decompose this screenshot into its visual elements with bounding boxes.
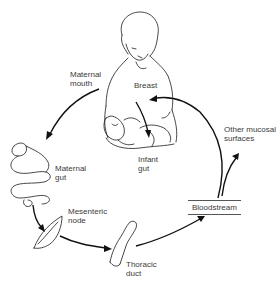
label-breast: Breast: [134, 81, 157, 90]
arrow-breast-to-infant-gut: [136, 102, 148, 132]
label-line: Maternal: [55, 164, 86, 173]
label-line: surfaces: [224, 134, 276, 143]
label-line: Mesenteric: [68, 207, 107, 216]
label-line: Maternal: [70, 70, 101, 79]
arrow-bloodstream-to-mucosal: [222, 158, 236, 196]
arrow-mouth-to-gut: [50, 89, 99, 134]
label-maternal-mouth: Maternal mouth: [70, 70, 101, 88]
label-line: gut: [138, 164, 158, 173]
arrow-node-to-duct: [60, 236, 106, 248]
label-infant-gut: Infant gut: [138, 155, 158, 173]
label-line: mouth: [70, 79, 101, 88]
arrowhead-icon: [197, 216, 205, 222]
enteromammary-diagram: Maternal mouth Breast Infant gut Materna…: [0, 0, 280, 281]
label-line: node: [68, 216, 107, 225]
label-thoracic-duct: Thoracic duct: [126, 260, 157, 278]
label-mesenteric-node: Mesenteric node: [68, 207, 107, 225]
label-line: Infant: [138, 155, 158, 164]
arrow-duct-to-bloodstream: [136, 219, 200, 246]
arrowhead-icon: [104, 245, 112, 252]
arrowhead-icon: [149, 95, 157, 102]
label-line: gut: [55, 173, 86, 182]
label-other-mucosal-surfaces: Other mucosal surfaces: [224, 125, 276, 143]
arrow-gut-to-node: [33, 205, 42, 228]
maternal-gut-illustration: [11, 143, 50, 207]
label-line: duct: [126, 269, 157, 278]
arrowhead-icon: [46, 131, 53, 140]
mesenteric-node-illustration: [34, 216, 62, 248]
label-line: Thoracic: [126, 260, 157, 269]
label-maternal-gut: Maternal gut: [55, 164, 86, 182]
label-bloodstream: Bloodstream: [188, 200, 241, 215]
arrow-bloodstream-to-breast: [156, 98, 222, 198]
arrowhead-icon: [145, 130, 151, 138]
label-line: Other mucosal: [224, 125, 276, 134]
